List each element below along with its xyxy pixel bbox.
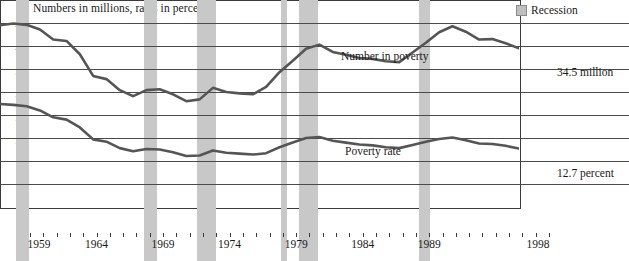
x-axis-tick [456,233,457,237]
x-axis-tick-label: 1964 [85,238,108,250]
x-axis-tick [403,233,404,237]
x-axis-tick [57,233,58,237]
x-axis-tick [296,233,297,237]
x-axis-tick [203,233,204,237]
x-axis-tick-label: 1959 [28,238,51,250]
x-axis-tick-label: 1984 [351,238,374,250]
legend-label-recession: Recession [531,4,578,16]
x-axis-tick [83,233,84,237]
x-axis-tick-label: 1989 [418,238,441,250]
x-axis-tick [549,233,550,237]
x-axis-tick-label: 1974 [218,238,241,250]
plot-area [0,0,521,209]
x-axis-tick [469,233,470,237]
x-axis-tick [309,233,310,237]
x-axis-tick-label: 1979 [285,238,308,250]
x-axis-tick [522,233,523,237]
series-line [0,104,519,156]
x-axis-tick [243,233,244,237]
x-axis-tick [536,233,537,237]
x-axis-tick-label: 1969 [152,238,175,250]
x-axis-labels: 19591964196919741979198419891998 [30,238,551,254]
chart-container: Numbers in millions, rates in percent Re… [0,0,629,261]
x-axis-tick [496,233,497,237]
x-axis-tick [176,233,177,237]
x-axis-tick [123,233,124,237]
x-axis-tick [97,233,98,237]
x-axis-tick [43,233,44,237]
x-axis-tick-label: 1998 [527,238,550,250]
x-axis-tick [150,233,151,237]
x-axis-tick [349,233,350,237]
x-axis-tick [283,233,284,237]
x-axis-tick [389,233,390,237]
x-axis-tick [216,233,217,237]
series-line [0,23,519,101]
x-axis-tick [429,233,430,237]
x-axis-tick [416,233,417,237]
series-label-number-in-poverty: Number in poverty [341,50,429,62]
x-axis-tick [509,233,510,237]
x-axis-tick [190,233,191,237]
x-axis-tick [443,233,444,237]
x-axis-tick [270,233,271,237]
x-axis-tick [363,233,364,237]
x-axis-tick [136,233,137,237]
x-axis-tick [230,233,231,237]
x-axis-tick [70,233,71,237]
series-label-poverty-rate: Poverty rate [345,145,401,157]
end-value-poverty-rate: 12.7 percent [557,167,614,179]
x-axis-tick [376,233,377,237]
x-axis-tick [163,233,164,237]
x-axis-tick [323,233,324,237]
x-axis-tick [30,233,31,237]
series-lines [0,0,519,207]
end-value-number-in-poverty: 34.5 million [557,66,613,78]
x-axis-tick [482,233,483,237]
x-axis-tick [336,233,337,237]
x-axis-tick [256,233,257,237]
legend: Recession [516,4,578,16]
x-axis-tick [110,233,111,237]
